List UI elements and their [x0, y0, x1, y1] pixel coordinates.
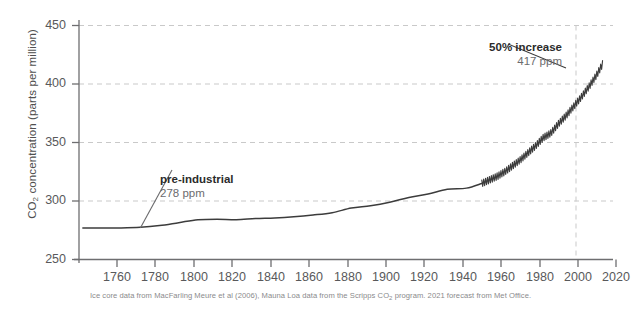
- annotation-pre-industrial: pre-industrial 278 ppm: [160, 172, 233, 201]
- x-axis-tick-label-1780: 1780: [133, 270, 177, 284]
- annotation-current-value: 417 ppm: [437, 54, 562, 69]
- y-axis-label-post: concentration (parts per million): [26, 29, 38, 197]
- footnote-sub: 2: [389, 295, 392, 301]
- x-axis-tick-label-1920: 1920: [402, 270, 446, 284]
- x-axis-ticks: [117, 260, 616, 268]
- annotation-current-title: 50% increase: [437, 40, 562, 54]
- y-axis-label: CO2 concentration (parts per million): [26, 0, 38, 249]
- series-ice-core: [83, 183, 482, 228]
- footnote-part-a: Ice core data from MacFarling Meure et a…: [90, 291, 389, 300]
- x-axis-tick-label-1860: 1860: [287, 270, 331, 284]
- x-axis-tick-label-2020: 2020: [594, 270, 635, 284]
- chart-footnote: Ice core data from MacFarling Meure et a…: [0, 291, 621, 300]
- y-axis-tick-label-450: 450: [28, 18, 66, 32]
- y-axis-tick-label-300: 300: [28, 193, 66, 207]
- x-axis-tick-label-1960: 1960: [479, 270, 523, 284]
- y-axis-tick-label-400: 400: [28, 76, 66, 90]
- annotation-pre-industrial-value: 278 ppm: [160, 186, 233, 201]
- x-axis-tick-label-1820: 1820: [210, 270, 254, 284]
- footnote-part-b: program. 2021 forecast from Met Office.: [393, 291, 532, 300]
- annotation-current: 50% increase 417 ppm: [437, 40, 562, 69]
- y-axis-tick-label-350: 350: [28, 135, 66, 149]
- series-mauna-loa: [482, 61, 603, 187]
- y-axis-ticks: [72, 26, 79, 260]
- y-axis-tick-label-250: 250: [28, 252, 66, 266]
- annotation-pre-industrial-title: pre-industrial: [160, 172, 233, 186]
